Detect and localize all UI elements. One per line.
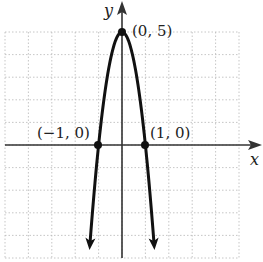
vertex-point [118, 28, 126, 36]
x-axis-label: x [250, 150, 259, 169]
left-root-label: (−1, 0) [37, 124, 90, 142]
right-root-point [141, 141, 149, 149]
y-axis-label: y [103, 1, 114, 20]
parabola-graph: x y (0, 5) (−1, 0) (1, 0) [0, 0, 263, 262]
y-axis [117, 1, 127, 258]
left-root-point [94, 141, 102, 149]
right-root-label: (1, 0) [150, 124, 190, 142]
vertex-label: (0, 5) [132, 22, 172, 40]
